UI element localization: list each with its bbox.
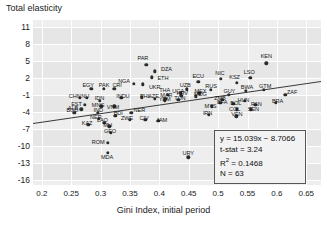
data-point [141, 83, 144, 86]
data-point-label: BGD [66, 107, 78, 113]
gridline-horizontal [33, 44, 321, 45]
data-point [249, 76, 252, 79]
data-point-label: GEO [104, 128, 116, 134]
gridline-horizontal [33, 78, 321, 79]
data-point-label: KAZ [82, 120, 93, 126]
data-point-label: BRA [272, 98, 283, 104]
regression-equation: y = 15.039x − 8.7066 [220, 134, 300, 145]
data-point-label: ETH [157, 75, 168, 81]
data-point-label: VEN [231, 111, 242, 117]
data-point-label: BWA [241, 84, 253, 90]
data-point-label: MDA [101, 154, 113, 160]
data-point-label: JAM [156, 117, 167, 123]
y-axis-tick-label: 5 [0, 56, 30, 66]
data-point [196, 80, 199, 83]
gridline-horizontal [33, 27, 321, 28]
data-point-label: MLI [103, 122, 112, 128]
data-point-label: IND [94, 107, 103, 113]
data-point-label: AZE [148, 93, 159, 99]
data-point-label: MDG [194, 91, 207, 97]
data-point-label: GTM [259, 83, 271, 89]
data-point-label: NU [81, 93, 89, 99]
data-point-label: CRI [112, 82, 121, 88]
y-axis-tick-label: 2 [0, 73, 30, 83]
data-point-label: YEM [159, 96, 171, 102]
data-point-label: PAK [99, 82, 109, 88]
data-point-label: BFA [217, 99, 227, 105]
data-point-label: GUY [223, 88, 235, 94]
y-axis-tick-label: -10 [0, 141, 30, 151]
y-axis-title: Total elasticity [6, 3, 62, 13]
data-point-label: DZA [161, 66, 172, 72]
statistics-box: y = 15.039x − 8.7066 t-stat = 3.24 R2 = … [214, 130, 306, 184]
data-point-label: INDU [116, 93, 129, 99]
r2-value: = 0.1468 [229, 159, 263, 168]
data-point-label: CHN [69, 93, 81, 99]
gridline-horizontal [33, 61, 321, 62]
data-point-label: PAR [138, 55, 149, 61]
y-axis-tick-label: -4 [0, 107, 30, 117]
data-point-label: ROM [92, 139, 105, 145]
data-point-label: IRN [203, 110, 212, 116]
data-point-label: URY [182, 150, 193, 156]
data-point-label: HRV [177, 90, 188, 96]
data-point-label: ZAF [287, 89, 297, 95]
y-axis-tick-label: -16 [0, 175, 30, 185]
data-point-label: NER [134, 107, 146, 113]
data-point-label: RUS [205, 83, 217, 89]
y-axis-tick-label: 11 [0, 22, 30, 32]
data-point-label: ECU [192, 73, 204, 79]
data-point [132, 82, 135, 85]
data-point-label: EGY [82, 82, 94, 88]
y-axis-tick-label: -13 [0, 158, 30, 168]
t-statistic: t-stat = 3.24 [220, 145, 300, 156]
y-axis-tick-label: -1 [0, 90, 30, 100]
data-point-label: CIV [140, 115, 149, 121]
sample-size: N = 63 [220, 169, 300, 180]
x-axis-title: Gini Index, initial period [0, 205, 327, 215]
y-axis-tick-label: 8 [0, 39, 30, 49]
data-point-label: LSO [244, 69, 255, 75]
x-axis-tick-label: 0.65 [286, 189, 326, 198]
data-point [219, 77, 222, 80]
data-point-label: ZWE [121, 115, 133, 121]
data-point-label: KEN [261, 53, 272, 59]
data-point-label: NIC [215, 70, 224, 76]
data-point-label: IDN [95, 95, 104, 101]
chart-root: Total elasticity PARDZAETHKENNGAUKRNICLS… [0, 0, 327, 225]
data-point-label: HUN [237, 97, 249, 103]
data-point-label: MYS [205, 103, 217, 109]
data-point [235, 81, 238, 84]
data-point-label: VNM [107, 104, 119, 110]
data-point-label: SEN [248, 106, 259, 112]
y-axis-tick-label: -7 [0, 124, 30, 134]
r-squared: R2 = 0.1468 [220, 155, 300, 169]
data-point-label: KSZ [229, 74, 240, 80]
